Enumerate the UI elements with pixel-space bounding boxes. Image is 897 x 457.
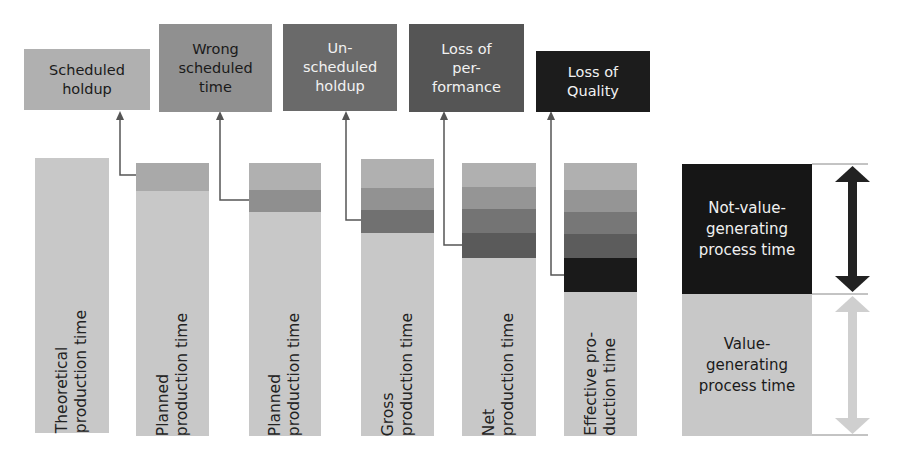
- bar-label: Planned production time: [154, 305, 192, 436]
- value-double-arrow-icon: [835, 296, 870, 434]
- loss-box-loss-of-quality: Loss of Quality: [536, 51, 650, 112]
- bar-label: Gross production time: [379, 305, 417, 436]
- bar-label: Effective pro- duction time: [582, 324, 620, 436]
- value-generating-label: Value- generating process time: [699, 334, 795, 397]
- bar-planned-production-time-2: Planned production time: [249, 163, 321, 436]
- loss-box-wrong-scheduled-time: Wrong scheduled time: [159, 24, 272, 112]
- value-generating-box: Value- generating process time: [682, 294, 812, 436]
- bar-net-production-time: Net production time: [462, 163, 536, 436]
- bar-label: Planned production time: [266, 305, 304, 436]
- not-value-generating-label: Not-value- generating process time: [699, 198, 795, 261]
- bar-label: Net production time: [480, 305, 518, 436]
- loss-box-label: Wrong scheduled time: [178, 40, 252, 97]
- loss-box-loss-of-performance: Loss of per- formance: [409, 24, 524, 112]
- loss-box-unscheduled-holdup: Un- scheduled holdup: [283, 24, 397, 111]
- loss-box-label: Scheduled holdup: [49, 61, 125, 99]
- bar-planned-production-time-1: Planned production time: [136, 163, 209, 436]
- arrowhead-icon: [216, 111, 224, 120]
- not-value-generating-box: Not-value- generating process time: [682, 164, 812, 294]
- bar-effective-production-time: Effective pro- duction time: [564, 163, 637, 436]
- bar-gross-production-time: Gross production time: [361, 159, 434, 436]
- loss-box-scheduled-holdup: Scheduled holdup: [24, 49, 150, 110]
- loss-box-label: Loss of per- formance: [432, 40, 501, 97]
- bar-label: Theoretical production time: [53, 302, 91, 433]
- arrowhead-icon: [440, 111, 448, 120]
- loss-box-label: Un- scheduled holdup: [303, 39, 377, 96]
- bar-theoretical-production-time: Theoretical production time: [35, 158, 109, 433]
- arrowhead-icon: [116, 111, 124, 120]
- arrowhead-icon: [342, 111, 350, 120]
- loss-box-label: Loss of Quality: [567, 63, 619, 101]
- not-value-double-arrow-icon: [835, 166, 870, 292]
- arrowhead-icon: [547, 111, 555, 120]
